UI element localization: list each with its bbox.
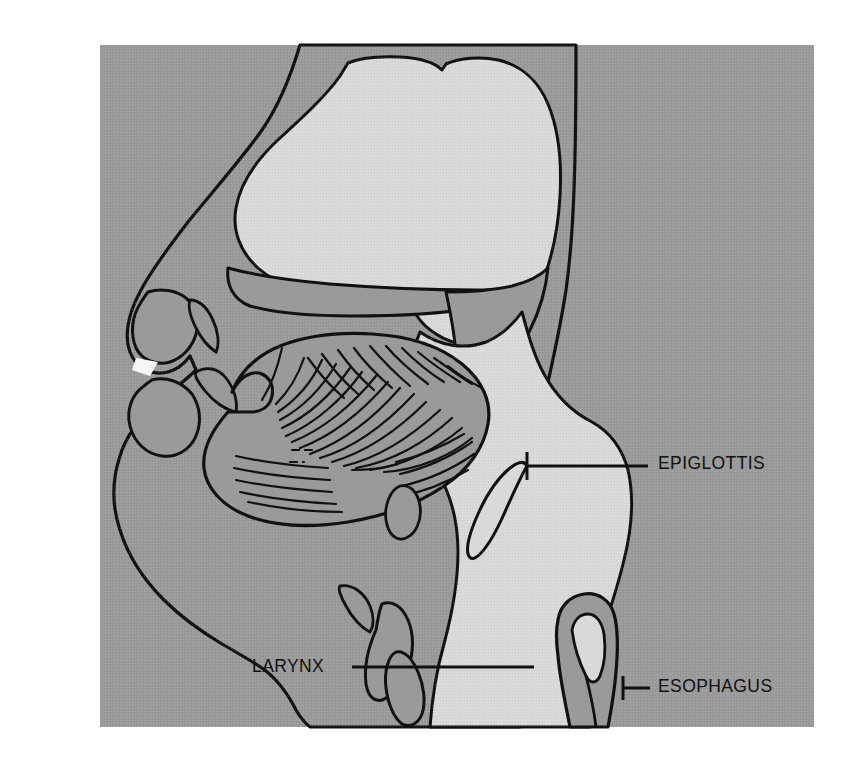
sagittal-head-neck-figure: EPIGLOTTIS LARYNX ESOPHAGUS [0,0,856,764]
anatomy-diagram: EPIGLOTTIS LARYNX ESOPHAGUS [0,0,856,764]
esophagus-tube [557,594,618,727]
epiglottis-label: EPIGLOTTIS [658,453,765,473]
esophagus-label: ESOPHAGUS [658,676,772,696]
larynx-label: LARYNX [252,656,324,676]
lower-lip [129,379,200,457]
tongue-foramen [386,486,421,539]
